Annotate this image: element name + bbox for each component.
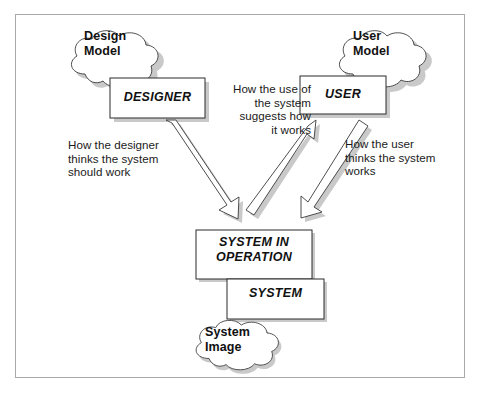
cloud-label-design-model: Design Model: [84, 29, 126, 59]
caption-system-image: How the use of the system suggests how i…: [205, 82, 311, 137]
box-label-system-in-operation: SYSTEM IN OPERATION: [196, 235, 312, 265]
cloud-label-user-model: User Model: [353, 29, 390, 59]
box-label-user: USER: [300, 87, 386, 102]
box-label-designer: DESIGNER: [110, 90, 205, 105]
cloud-label-system-image: System Image: [205, 325, 250, 355]
caption-user-model: How the user thinks the system works: [345, 137, 465, 178]
box-label-system: SYSTEM: [227, 286, 324, 301]
caption-designer-model: How the designer thinks the system shoul…: [68, 138, 196, 179]
diagram-figure: Design Model User Model System Image DES…: [0, 0, 481, 393]
